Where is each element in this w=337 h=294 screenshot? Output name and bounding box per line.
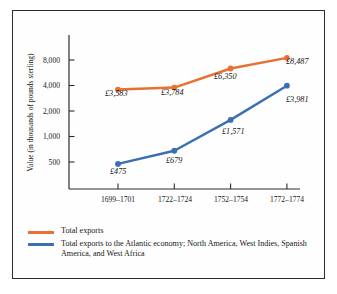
point-label-orange-3: £6,350	[214, 72, 237, 81]
y-tick-label-1000: 1,000	[18, 132, 60, 141]
x-tick-label-4: 1772–1774	[255, 195, 319, 204]
legend-item-atlantic-economy: Total exports to the Atlantic economy; N…	[28, 239, 310, 260]
figure-container: Value (in thousands of pounds sterling) …	[0, 0, 337, 294]
legend-label-atlantic-economy: Total exports to the Atlantic economy; N…	[61, 239, 310, 260]
legend-label-total-exports: Total exports	[61, 226, 103, 237]
x-tick-label-3: 1752–1754	[199, 195, 263, 204]
legend-swatch-orange	[28, 231, 54, 234]
point-label-blue-1: £475	[110, 167, 126, 176]
point-label-orange-4: £8,487	[286, 57, 309, 66]
y-tick-label-2000: 2,000	[18, 107, 60, 116]
x-tick-label-1: 1699–1701	[86, 195, 150, 204]
chart-legend: Total exports Total exports to the Atlan…	[28, 226, 310, 262]
y-tick-label-500: 500	[18, 158, 60, 167]
x-tick-label-2: 1722–1724	[143, 195, 207, 204]
point-label-orange-1: £3,583	[105, 89, 128, 98]
point-label-blue-3: £1,571	[222, 127, 245, 136]
legend-swatch-blue	[28, 243, 54, 246]
point-label-orange-2: £3,784	[161, 88, 184, 97]
y-tick-label-8000: 8,000	[18, 56, 60, 65]
legend-item-total-exports: Total exports	[28, 226, 310, 237]
point-label-blue-2: £679	[166, 156, 182, 165]
point-label-blue-4: £3,981	[286, 95, 309, 104]
y-tick-label-4000: 4,000	[18, 81, 60, 90]
